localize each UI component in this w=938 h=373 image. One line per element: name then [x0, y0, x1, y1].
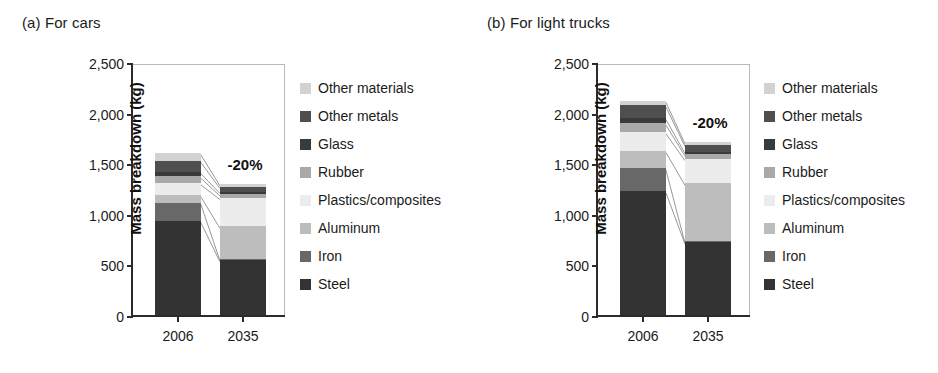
annotation-percent-change: -20%: [692, 114, 727, 131]
bar-segment-aluminum: [620, 151, 666, 169]
bar-segment-iron: [620, 168, 666, 191]
connector-line: [201, 163, 220, 189]
bar-segment-steel: [155, 221, 201, 315]
connector-line: [666, 193, 685, 244]
legend-item-iron[interactable]: Iron: [300, 242, 441, 270]
legend-item-steel[interactable]: Steel: [300, 270, 441, 298]
legend-swatch-icon: [300, 83, 311, 94]
connector-line: [666, 125, 685, 156]
legend-swatch-icon: [764, 279, 775, 290]
connector-line: [666, 107, 685, 146]
connector-line: [666, 120, 685, 154]
annotation-percent-change: -20%: [227, 156, 262, 173]
legend-swatch-icon: [300, 279, 311, 290]
x-tick-label-2035: 2035: [692, 328, 723, 344]
stacked-bar-2006[interactable]: [620, 101, 666, 316]
legend-swatch-icon: [764, 167, 775, 178]
legend-label: Other metals: [782, 109, 862, 123]
bar-segment-aluminum: [220, 226, 266, 258]
legend-label: Rubber: [318, 165, 364, 179]
legend-label: Glass: [318, 137, 354, 151]
bar-segment-steel: [685, 242, 731, 315]
bar-segment-other-metals: [685, 145, 731, 152]
bar-segment-plastics-composites: [685, 159, 731, 184]
bar-segment-other-metals: [155, 161, 201, 172]
legend-item-other-metals[interactable]: Other metals: [764, 102, 905, 130]
bar-segment-other-materials: [155, 153, 201, 161]
stacked-bar-2006[interactable]: [155, 153, 201, 315]
legend-swatch-icon: [300, 223, 311, 234]
figure: (a) For cars 05001,0001,5002,0002,500 Ma…: [0, 0, 938, 373]
legend-label: Plastics/composites: [318, 193, 441, 207]
x-tick-label-2006: 2006: [162, 328, 193, 344]
legend-item-aluminum[interactable]: Aluminum: [300, 214, 441, 242]
stacked-bar-2035[interactable]: [685, 142, 731, 315]
panel-title-b: (b) For light trucks: [487, 14, 610, 31]
legend-swatch-icon: [764, 139, 775, 150]
connector-line: [666, 153, 685, 186]
chart-panel-light-trucks: (b) For light trucks 05001,0001,5002,000…: [469, 0, 938, 373]
legend-label: Other materials: [782, 81, 878, 95]
legend-label: Rubber: [782, 165, 828, 179]
legend-item-rubber[interactable]: Rubber: [300, 158, 441, 186]
legend-label: Plastics/composites: [782, 193, 905, 207]
legend-label: Steel: [318, 277, 350, 291]
connector-line: [201, 174, 220, 194]
bar-segment-plastics-composites: [620, 132, 666, 151]
connector-line: [666, 102, 685, 143]
legend-label: Other metals: [318, 109, 398, 123]
x-tick-mark: [642, 315, 644, 322]
plot-area-cars: 05001,0001,5002,0002,500 Mass breakdown …: [131, 64, 285, 317]
connector-line: [201, 155, 220, 186]
legend-swatch-icon: [764, 223, 775, 234]
legend-label: Iron: [318, 249, 342, 263]
y-axis-title: Mass breakdown (kg): [127, 49, 144, 269]
legend-swatch-icon: [764, 195, 775, 206]
bar-segment-iron: [155, 203, 201, 221]
legend-item-glass[interactable]: Glass: [300, 130, 441, 158]
panel-title-a: (a) For cars: [22, 14, 101, 31]
connector-line: [666, 170, 685, 243]
legend-item-plastics-composites[interactable]: Plastics/composites: [764, 186, 905, 214]
bar-segment-plastics-composites: [155, 183, 201, 195]
legend-item-other-materials[interactable]: Other materials: [300, 74, 441, 102]
bar-segment-plastics-composites: [220, 198, 266, 227]
bar-segment-other-metals: [620, 105, 666, 118]
legend-item-glass[interactable]: Glass: [764, 130, 905, 158]
connector-line: [201, 223, 220, 262]
x-tick-mark: [177, 315, 179, 322]
legend-swatch-icon: [764, 83, 775, 94]
stacked-bar-2035[interactable]: [220, 184, 266, 315]
bar-segment-aluminum: [155, 195, 201, 203]
legend-item-other-materials[interactable]: Other materials: [764, 74, 905, 102]
bar-segment-steel: [620, 191, 666, 315]
legend-swatch-icon: [300, 139, 311, 150]
legend-item-plastics-composites[interactable]: Plastics/composites: [300, 186, 441, 214]
legend-item-rubber[interactable]: Rubber: [764, 158, 905, 186]
legend-item-aluminum[interactable]: Aluminum: [764, 214, 905, 242]
connector-line: [201, 178, 220, 196]
x-tick-mark: [242, 315, 244, 322]
y-axis-title: Mass breakdown (kg): [592, 49, 609, 269]
legend-light-trucks: Other materialsOther metalsGlassRubberPl…: [764, 74, 905, 298]
connector-line: [201, 185, 220, 200]
connector-line: [666, 134, 685, 161]
legend-label: Glass: [782, 137, 818, 151]
legend-swatch-icon: [300, 111, 311, 122]
bar-segment-aluminum: [685, 183, 731, 241]
bar-segment-steel: [220, 260, 266, 315]
chart-panel-cars: (a) For cars 05001,0001,5002,0002,500 Ma…: [0, 0, 469, 373]
legend-swatch-icon: [764, 111, 775, 122]
x-tick-label-2006: 2006: [627, 328, 658, 344]
legend-swatch-icon: [300, 167, 311, 178]
legend-item-iron[interactable]: Iron: [764, 242, 905, 270]
legend-label: Other materials: [318, 81, 414, 95]
legend-item-other-metals[interactable]: Other metals: [300, 102, 441, 130]
legend-label: Steel: [782, 277, 814, 291]
x-tick-mark: [707, 315, 709, 322]
legend-swatch-icon: [300, 195, 311, 206]
legend-label: Aluminum: [782, 221, 844, 235]
connector-line: [201, 197, 220, 228]
plot-area-light-trucks: 05001,0001,5002,0002,500 Mass breakdown …: [596, 64, 750, 317]
legend-item-steel[interactable]: Steel: [764, 270, 905, 298]
